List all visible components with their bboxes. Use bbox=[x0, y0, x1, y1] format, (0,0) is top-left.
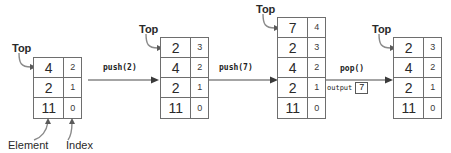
table-row: 2 1 bbox=[34, 78, 81, 98]
stack-cell-element: 2 bbox=[394, 38, 424, 57]
operation-arrow-push-2 bbox=[88, 76, 160, 86]
operation-output-value: 7 bbox=[355, 82, 368, 94]
stack-cell-index: 1 bbox=[308, 78, 325, 97]
stack-cell-index: 2 bbox=[308, 58, 325, 77]
stack-cell-element: 11 bbox=[278, 98, 308, 118]
table-row: 2 3 bbox=[278, 38, 325, 58]
table-row: 11 0 bbox=[34, 98, 81, 118]
stack-cell-index: 0 bbox=[64, 98, 81, 118]
operation-output-row-pop: output 7 bbox=[327, 82, 368, 94]
stack-cell-index: 1 bbox=[64, 78, 81, 97]
operation-label-push-2: push(2) bbox=[103, 64, 137, 72]
stack-after-push-2: 2 3 4 2 2 1 11 0 bbox=[160, 37, 209, 119]
table-row: 2 1 bbox=[161, 78, 208, 98]
stack-cell-index: 4 bbox=[308, 18, 325, 37]
stack-cell-element: 11 bbox=[394, 98, 424, 118]
stack-cell-index: 0 bbox=[308, 98, 325, 118]
table-row: 11 0 bbox=[161, 98, 208, 118]
table-row: 4 2 bbox=[278, 58, 325, 78]
table-row: 4 2 bbox=[161, 58, 208, 78]
operation-output-label: output bbox=[327, 85, 352, 92]
stack-cell-element: 2 bbox=[278, 78, 308, 97]
stack-cell-index: 3 bbox=[191, 38, 208, 57]
stack-after-push-7: 7 4 2 3 4 2 2 1 11 0 bbox=[277, 17, 326, 119]
table-row: 2 3 bbox=[161, 38, 208, 58]
stack-cell-index: 3 bbox=[424, 38, 441, 57]
table-row: 11 0 bbox=[394, 98, 441, 118]
table-row: 2 1 bbox=[394, 78, 441, 98]
stack-cell-element: 2 bbox=[394, 78, 424, 97]
table-row: 4 2 bbox=[394, 58, 441, 78]
table-row: 2 1 bbox=[278, 78, 325, 98]
table-row: 2 3 bbox=[394, 38, 441, 58]
stack-cell-element: 2 bbox=[278, 38, 308, 57]
operation-arrow-push-7 bbox=[209, 76, 279, 86]
index-callout-label: Index bbox=[66, 140, 93, 151]
table-row: 7 4 bbox=[278, 18, 325, 38]
stack-after-pop: 2 3 4 2 2 1 11 0 bbox=[393, 37, 442, 119]
stack-cell-element: 2 bbox=[161, 78, 191, 97]
stack-cell-index: 0 bbox=[191, 98, 208, 118]
stack-cell-element: 2 bbox=[161, 38, 191, 57]
stack-cell-element: 4 bbox=[394, 58, 424, 77]
stack-initial: 4 2 2 1 11 0 bbox=[33, 57, 82, 119]
stack-cell-element: 4 bbox=[34, 58, 64, 77]
stack-cell-index: 2 bbox=[424, 58, 441, 77]
stack-cell-element: 4 bbox=[161, 58, 191, 77]
element-callout-label: Element bbox=[8, 140, 48, 151]
table-row: 4 2 bbox=[34, 58, 81, 78]
stack-cell-index: 0 bbox=[424, 98, 441, 118]
stack-diagram-canvas: Top 4 2 2 1 11 0 Element Index push(2) T… bbox=[0, 0, 451, 153]
stack-cell-element: 4 bbox=[278, 58, 308, 77]
stack-cell-element: 11 bbox=[161, 98, 191, 118]
table-row: 11 0 bbox=[278, 98, 325, 118]
operation-label-pop: pop() bbox=[340, 65, 364, 73]
stack-cell-index: 2 bbox=[191, 58, 208, 77]
operation-label-push-7: push(7) bbox=[219, 64, 253, 72]
stack-cell-index: 1 bbox=[191, 78, 208, 97]
stack-cell-index: 1 bbox=[424, 78, 441, 97]
stack-cell-element: 2 bbox=[34, 78, 64, 97]
stack-cell-index: 2 bbox=[64, 58, 81, 77]
stack-cell-index: 3 bbox=[308, 38, 325, 57]
stack-cell-element: 11 bbox=[34, 98, 64, 118]
stack-cell-element: 7 bbox=[278, 18, 308, 37]
